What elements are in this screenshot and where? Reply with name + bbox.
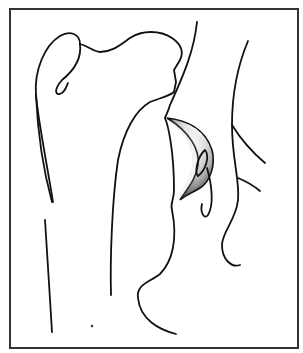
small-dot (91, 325, 93, 327)
line-drawing (0, 0, 303, 353)
central-contour (138, 118, 176, 334)
left-outer-contour (36, 33, 80, 332)
left-hook (56, 44, 80, 94)
top-ridge (80, 32, 182, 295)
right-diagonal (232, 125, 265, 163)
right-short-line (238, 178, 260, 191)
right-curve (222, 41, 248, 266)
